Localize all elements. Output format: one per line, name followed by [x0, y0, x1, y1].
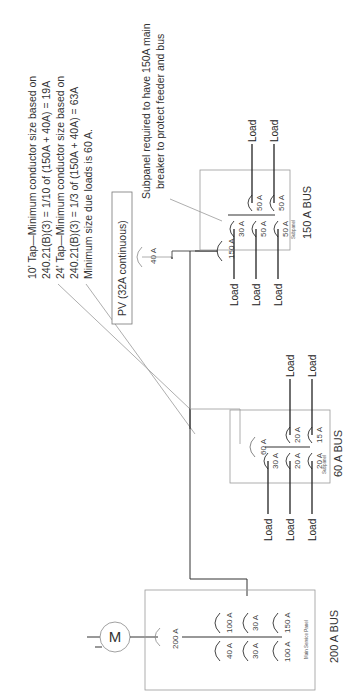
sub150-loads: Load Load Load Load Load [229, 120, 284, 306]
svg-text:20 A: 20 A [293, 452, 302, 469]
svg-text:Load: Load [251, 284, 262, 306]
svg-text:Minimum size due loads is 60 A: Minimum size due loads is 60 A. [82, 129, 94, 279]
svg-text:Load: Load [285, 519, 296, 541]
main-breakers-bottom: 40 A 30 A 100 A [215, 641, 292, 662]
subpanel-note: Subpanel required to have 150A main brea… [140, 23, 166, 199]
svg-text:Subpanel: Subpanel [291, 220, 296, 239]
sub60-breakers-bottom: 30 A 20 A 20 A [264, 452, 324, 469]
svg-text:Load: Load [263, 519, 274, 541]
tap-leader-2 [86, 284, 195, 434]
svg-text:Load: Load [273, 284, 284, 306]
svg-text:30 A: 30 A [237, 220, 246, 237]
svg-text:40 A: 40 A [225, 642, 234, 659]
subpanel-leader [170, 199, 222, 221]
svg-text:100 A: 100 A [283, 641, 292, 662]
svg-text:Load: Load [307, 519, 318, 541]
svg-text:150 A: 150 A [283, 612, 292, 633]
svg-text:60 A BUS: 60 A BUS [332, 430, 344, 477]
svg-text:PV (32A continuous): PV (32A continuous) [116, 220, 128, 316]
sub60-feeder [190, 409, 240, 444]
svg-text:200 A BUS: 200 A BUS [328, 610, 340, 663]
tap-note: 10' Tap—Minimum conductor size based on … [26, 76, 94, 279]
svg-text:Subpanel: Subpanel [322, 455, 327, 474]
electrical-one-line-diagram: 10' Tap—Minimum conductor size based on … [0, 0, 364, 699]
svg-text:200 A: 200 A [171, 628, 180, 649]
svg-text:150 A BUS: 150 A BUS [301, 186, 313, 239]
svg-text:M: M [109, 628, 122, 645]
sub150-breakers-top: 50 A 50 A [248, 194, 286, 211]
svg-text:10' Tap—Minimum conductor size: 10' Tap—Minimum conductor size based on [26, 76, 38, 279]
sub60-breakers-top: 20 A 15 A [286, 426, 324, 443]
svg-text:Load: Load [269, 120, 280, 142]
svg-text:30 A: 30 A [271, 452, 280, 469]
svg-text:50 A: 50 A [255, 194, 264, 211]
svg-text:50 A: 50 A [277, 194, 286, 211]
svg-text:Subpanel required to have 150A: Subpanel required to have 150A main [140, 23, 152, 199]
svg-text:Load: Load [307, 355, 318, 377]
pv-breaker-icon [137, 247, 142, 267]
svg-text:20 A: 20 A [293, 426, 302, 443]
pv-tie [172, 251, 218, 259]
svg-text:240.21(B)(3) = 1/10 of (150A +: 240.21(B)(3) = 1/10 of (150A + 40A) = 19… [40, 81, 52, 279]
svg-text:Main Service Panel: Main Service Panel [304, 620, 309, 659]
svg-text:30 A: 30 A [251, 642, 260, 659]
main-breakers-top: 100 A 30 A 150 A [215, 612, 292, 633]
svg-text:50 A: 50 A [281, 220, 290, 237]
sub60-loads: Load Load Load Load Load [263, 355, 318, 541]
svg-text:breaker to protect feeder and: breaker to protect feeder and bus [154, 34, 166, 189]
svg-text:Load: Load [285, 355, 296, 377]
svg-text:Load: Load [247, 120, 258, 142]
svg-text:240.21(B)(3) = 1/3 of (150A +: 240.21(B)(3) = 1/3 of (150A + 40A) = 63A [68, 87, 80, 279]
sub150-breakers-bottom: 30 A 50 A 50 A [230, 220, 290, 237]
sub60-main-breaker-icon [250, 437, 255, 457]
svg-text:30 A: 30 A [251, 614, 260, 631]
svg-text:50 A: 50 A [259, 220, 268, 237]
svg-text:24' Tap—Minimum conductor size: 24' Tap—Minimum conductor size based on [54, 76, 66, 279]
svg-text:15 A: 15 A [315, 426, 324, 443]
svg-text:40 A: 40 A [149, 247, 158, 264]
svg-text:Load: Load [229, 284, 240, 306]
svg-text:100 A: 100 A [225, 612, 234, 633]
